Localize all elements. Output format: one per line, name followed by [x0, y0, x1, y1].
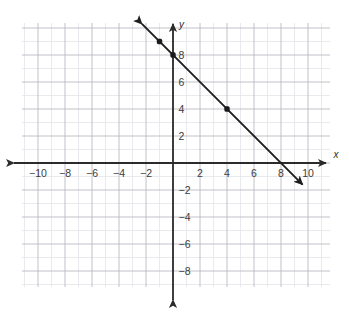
x-tick-label: −6	[86, 167, 98, 179]
graph-canvas: −10−8−6−4−22468108642−2−4−6−8 xy	[0, 0, 349, 312]
y-axis-name-label: y	[178, 19, 185, 30]
coordinate-plane-figure: −10−8−6−4−22468108642−2−4−6−8 xy	[0, 0, 349, 312]
x-tick-label: −2	[140, 167, 152, 179]
grid-minor-lines	[22, 23, 330, 287]
x-tick-label: 10	[302, 167, 314, 179]
y-tick-label: −8	[179, 265, 191, 277]
data-point	[224, 106, 229, 111]
x-tick-label: −10	[29, 167, 47, 179]
y-tick-label: 6	[179, 76, 185, 88]
plotted-line	[142, 24, 303, 185]
y-tick-label: 2	[179, 130, 185, 142]
y-tick-label: −6	[179, 238, 191, 250]
y-tick-label: 8	[179, 49, 185, 61]
line-segment	[142, 24, 303, 185]
y-tick-label: −4	[179, 211, 191, 223]
x-tick-label: 6	[251, 167, 257, 179]
data-point	[170, 52, 175, 57]
y-tick-label: 4	[179, 103, 185, 115]
x-tick-label: −8	[59, 167, 71, 179]
x-tick-label: 8	[278, 167, 284, 179]
x-tick-label: −4	[113, 167, 125, 179]
x-tick-label: 2	[197, 167, 203, 179]
data-point	[157, 39, 162, 44]
axis-names: xy	[178, 19, 340, 160]
grid-major-lines	[22, 23, 330, 287]
y-tick-label: −2	[179, 184, 191, 196]
x-tick-label: 4	[224, 167, 230, 179]
x-axis-name-label: x	[333, 149, 340, 160]
